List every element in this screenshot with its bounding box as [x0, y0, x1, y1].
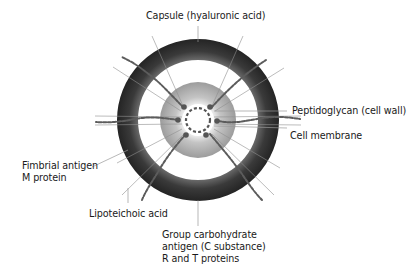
label-peptidoglycan: Peptidoglycan (cell wall) [292, 105, 406, 117]
group-line-2: antigen (C substance) [162, 241, 266, 253]
label-capsule: Capsule (hyaluronic acid) [146, 10, 265, 22]
group-line-3: R and T proteins [162, 253, 266, 265]
fimbrial-line-1: Fimbrial antigen [22, 160, 98, 172]
label-fimbrial-antigen: Fimbrial antigen M protein [22, 160, 98, 184]
group-line-1: Group carbohydrate [162, 229, 266, 241]
label-cell-membrane: Cell membrane [290, 130, 362, 142]
label-group-carbohydrate: Group carbohydrate antigen (C substance)… [162, 229, 266, 265]
fimbrial-line-2: M protein [22, 172, 98, 184]
label-lipoteichoic-acid: Lipoteichoic acid [89, 208, 168, 220]
